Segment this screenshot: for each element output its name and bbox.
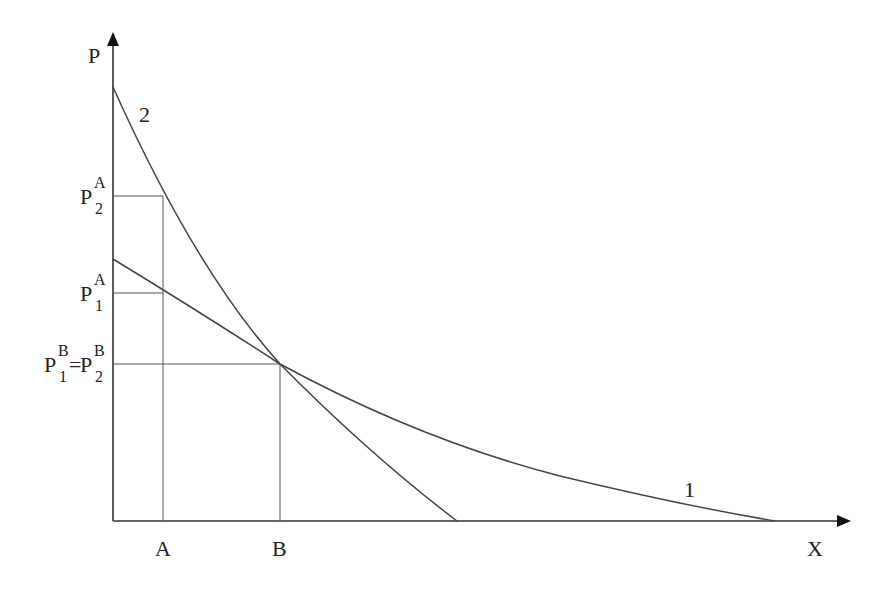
p1b-base: P xyxy=(44,352,56,377)
y-tick-pb: P B 1 = P B 2 xyxy=(44,342,105,385)
x-axis-label: X xyxy=(807,536,823,561)
p2b-base: P xyxy=(80,352,92,377)
p2a-sub: 2 xyxy=(95,200,103,217)
p1b-sup: B xyxy=(58,342,69,359)
x-tick-b: B xyxy=(272,536,287,561)
x-axis-arrow-icon xyxy=(837,515,851,527)
guide-lines xyxy=(113,196,280,521)
curve-1-label: 1 xyxy=(684,477,695,502)
p1a-sup: A xyxy=(94,271,106,288)
p1a-sub: 1 xyxy=(95,297,103,314)
demand-diagram: P X 2 1 A B P A 2 P A 1 P B 1 = P B 2 xyxy=(0,0,892,589)
x-tick-a: A xyxy=(155,536,171,561)
p2a-base: P xyxy=(80,184,92,209)
p2a-sup: A xyxy=(94,174,106,191)
axes xyxy=(107,32,851,527)
demand-curve-1 xyxy=(113,259,775,521)
p2b-sub: 2 xyxy=(95,368,103,385)
y-tick-p2a: P A 2 xyxy=(80,174,106,217)
p1a-base: P xyxy=(80,281,92,306)
curve-2-label: 2 xyxy=(139,102,150,127)
p1b-sub: 1 xyxy=(59,368,67,385)
p2b-sup: B xyxy=(94,342,105,359)
y-tick-p1a: P A 1 xyxy=(80,271,106,314)
y-axis-label: P xyxy=(88,43,100,68)
demand-curve-2 xyxy=(113,87,457,521)
y-axis-arrow-icon xyxy=(107,32,119,46)
